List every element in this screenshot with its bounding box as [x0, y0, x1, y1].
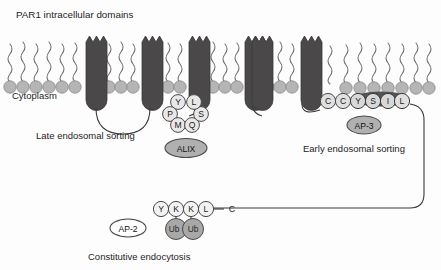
ubiquitin-group: Ub Ub	[166, 219, 204, 240]
ap3-adaptor-label: AP-3	[354, 121, 373, 131]
caption-constitutive-endocytosis: Constitutive endocytosis	[88, 251, 191, 262]
alix-residue-M: M	[171, 118, 186, 133]
alix-residue-L: L	[187, 95, 202, 110]
alix-motif: Y P M Q S L	[163, 95, 209, 133]
ap2-residue-K2-label: K	[188, 204, 194, 214]
ap3-residue-C2-label: C	[340, 96, 346, 106]
ap3-residue-S-label: S	[370, 96, 376, 106]
alix-residue-Y-label: Y	[175, 97, 181, 107]
membrane-lipid-tails	[8, 42, 431, 88]
ap3-residue-C1-label: C	[325, 96, 331, 106]
ap2-residue-L-label: L	[204, 204, 209, 214]
alix-residue-M-label: M	[174, 120, 181, 130]
helix-2	[142, 36, 163, 111]
ap3-residue-L-label: L	[400, 96, 405, 106]
helix-6	[252, 36, 273, 111]
ap3-residue-C1: C	[320, 93, 335, 108]
caption-late-endosomal-sorting: Late endosomal sorting	[36, 130, 135, 141]
ap2-residue-K1: K	[168, 201, 183, 216]
ap3-adaptor: AP-3	[347, 116, 381, 134]
ap2-motif: Y K K L C	[153, 201, 235, 216]
ap2-residue-K2: K	[183, 201, 198, 216]
ap2-residue-Y: Y	[153, 201, 168, 216]
ubiquitin-2: Ub	[183, 219, 204, 240]
alix-residue-P-label: P	[167, 109, 173, 119]
ap3-residue-L: L	[394, 93, 409, 108]
ap2-residue-L: L	[198, 201, 213, 216]
ap2-adaptor: AP-2	[110, 219, 146, 237]
alix-adaptor: ALIX	[165, 139, 207, 158]
ap2-residue-Y-label: Y	[158, 204, 164, 214]
helix-1	[86, 36, 107, 111]
alix-residue-L-label: L	[192, 97, 197, 107]
ap3-residue-Y-label: Y	[355, 96, 361, 106]
ap2-residue-K1-label: K	[173, 204, 179, 214]
ap3-residue-I: I	[380, 93, 395, 108]
ubiquitin-2-label: Ub	[188, 224, 199, 234]
par1-diagram: Y P M Q S L ALIX C	[0, 0, 441, 270]
ap3-residue-C2: C	[335, 93, 350, 108]
alix-residue-S-label: S	[198, 109, 204, 119]
c-terminus-label: C	[229, 204, 236, 214]
helix-7	[301, 36, 322, 111]
cytoplasm-label: Cytoplasm	[12, 90, 57, 101]
ap3-residue-Y: Y	[350, 93, 365, 108]
ubiquitin-1-label: Ub	[169, 224, 180, 234]
ap3-residue-I-label: I	[387, 96, 389, 106]
ap3-residue-S: S	[365, 93, 380, 108]
ap2-adaptor-label: AP-2	[118, 224, 137, 234]
alix-adaptor-label: ALIX	[177, 144, 196, 154]
alix-residue-Q-label: Q	[189, 120, 196, 130]
page-title: PAR1 intracellular domains	[16, 9, 134, 20]
caption-early-endosomal-sorting: Early endosomal sorting	[303, 143, 405, 154]
